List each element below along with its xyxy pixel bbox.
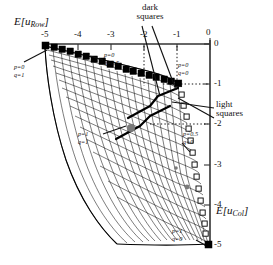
y-axis-title-close: ] <box>45 15 49 27</box>
x-tick-label-minus5: -5 <box>41 30 49 39</box>
annotation-p0-q0-q: q=0 <box>178 70 188 76</box>
x-tick-label-minus1: -1 <box>173 30 181 39</box>
plot-svg <box>0 0 273 265</box>
figure-canvas: E[uRow] E[uCol] -5 -4 -3 -2 -1 0 0 -1 -2… <box>0 0 273 265</box>
x-axis-title-close: ] <box>244 204 248 216</box>
y-tick-label-minus2: -2 <box>214 119 222 128</box>
y-tick-label-minus3: -3 <box>214 160 222 169</box>
y-axis-title-sub: Row <box>31 20 45 29</box>
dark-squares-callout: dark squares <box>122 3 178 21</box>
annotation-p1-q0: p=1 q=0 <box>172 228 182 242</box>
leader-p0q1 <box>24 50 47 62</box>
annotation-p0-q1: p=0 q=1 <box>14 64 24 78</box>
annotation-p0-q0-p: p=0 <box>178 62 188 68</box>
annotation-p05-q0: p=0.5 q=0 <box>183 131 198 145</box>
annotation-p1-q1: p=1 q=1 <box>78 131 88 145</box>
annotation-p0-q05-p: p=0 <box>104 52 119 58</box>
light-squares-callout: light squares <box>216 100 272 118</box>
light-squares-line2: squares <box>216 109 272 118</box>
dark-squares-line2: squares <box>122 12 178 21</box>
annotation-p1-q1-q: q=1 <box>78 139 88 145</box>
y-tick-label-minus1: -1 <box>214 79 222 88</box>
annotation-p0-q05: p=0 q=0.5 <box>104 52 119 66</box>
x-tick-label-minus3: -3 <box>107 30 115 39</box>
annotation-p0-q1-p: p=0 <box>14 64 24 70</box>
y-tick-label-minus4: -4 <box>214 200 222 209</box>
annotation-p1-q0-p: p=1 <box>172 228 182 234</box>
y-tick-label-zero: 0 <box>214 39 219 48</box>
y-tick-label-minus5: -5 <box>214 240 222 249</box>
annotation-p0-q1-q: q=1 <box>14 72 24 78</box>
annotation-p1-q0-q: q=0 <box>172 236 182 242</box>
y-axis-title-main: E[u <box>14 15 31 27</box>
x-tick-label-minus2: -2 <box>140 30 148 39</box>
x-axis-title-sub: Col <box>233 209 244 218</box>
annotation-p05-q0-q: q=0 <box>183 139 198 145</box>
highlight-dots <box>127 124 189 189</box>
y-axis-title: E[uRow] <box>14 16 49 29</box>
light-square-markers <box>179 92 208 236</box>
leader-light-1 <box>172 102 214 108</box>
annotation-p1-q1-p: p=1 <box>78 131 88 137</box>
annotation-p0-q05-q: q=0.5 <box>104 60 119 66</box>
annotation-p05-q0-p: p=0.5 <box>183 131 198 137</box>
annotation-p0-q0: p=0 q=0 <box>178 62 188 76</box>
x-tick-label-minus4: -4 <box>74 30 82 39</box>
x-tick-label-zero: 0 <box>206 28 211 37</box>
